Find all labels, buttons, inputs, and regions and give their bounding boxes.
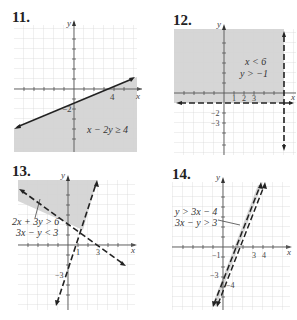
graph-14: y x −1 3 4 −3 −4 y > 3x − 4 3x − y > 3 <box>150 160 297 320</box>
tick-label: 3 <box>252 251 256 260</box>
inequality-label: x − 2y ≥ 4 <box>86 124 128 135</box>
x-axis-label: x <box>130 245 135 255</box>
tick-label: −2 <box>211 109 220 118</box>
inequality-label: y > −1 <box>239 68 268 79</box>
inequality-label: 2x + 3y > 6 <box>12 216 59 227</box>
graph-13: y x 1 3 −3 2x + 3y > 6 3x − y < 3 <box>0 160 150 320</box>
tick-label: −4 <box>226 281 235 290</box>
tick-label: 4 <box>262 251 266 260</box>
inequality-label: x < 6 <box>244 56 266 67</box>
tick-label: −3 <box>211 119 220 128</box>
tick-label: −3 <box>55 271 64 280</box>
tick-label: 1 <box>76 248 80 257</box>
tick-label: −2 <box>62 104 72 114</box>
tick-label: 3 <box>96 248 100 257</box>
x-axis-label: x <box>135 91 140 101</box>
inequality-label: 3x − y < 3 <box>15 227 58 238</box>
tick-label: 1 <box>232 94 236 103</box>
y-axis-label: y <box>66 18 71 28</box>
graph-11: y x 4 −2 x − 2y ≥ 4 <box>0 0 150 160</box>
x-axis-label: x <box>286 247 291 257</box>
tick-label: −1 <box>212 251 221 260</box>
y-axis-label: y <box>216 19 221 29</box>
y-axis-label: y <box>60 170 65 180</box>
x-axis-label: x <box>290 92 295 102</box>
tick-label: 2 <box>242 94 246 103</box>
inequality-label: 3x − y > 3 <box>174 217 217 228</box>
tick-label: 4 <box>110 92 115 102</box>
tick-label: −3 <box>210 271 219 280</box>
tick-label: 3 <box>252 94 256 103</box>
inequality-label: y > 3x − 4 <box>174 206 217 217</box>
y-axis-label: y <box>215 172 220 182</box>
graph-12: y x 1 2 3 −2 −3 x < 6 y > −1 <box>150 0 297 160</box>
